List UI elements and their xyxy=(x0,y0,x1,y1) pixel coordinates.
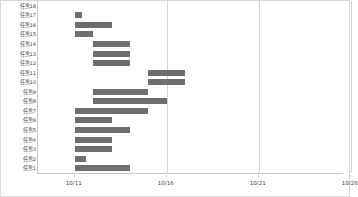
gantt-bar[interactable] xyxy=(75,108,149,114)
x-axis-tick xyxy=(74,175,75,177)
gantt-bar[interactable] xyxy=(93,98,167,104)
y-axis-tick-label: 任务18 xyxy=(1,3,36,9)
y-axis-tick-label: 任务16 xyxy=(1,22,36,28)
y-axis-tick-label: 任务8 xyxy=(1,98,36,104)
gantt-bar[interactable] xyxy=(75,31,93,37)
gantt-bar[interactable] xyxy=(75,137,112,143)
gantt-bar[interactable] xyxy=(93,51,130,57)
gridline xyxy=(259,1,260,173)
gridline xyxy=(167,1,168,173)
y-axis-tick-label: 任务3 xyxy=(1,146,36,152)
gantt-bar[interactable] xyxy=(75,12,82,18)
y-axis-tick-label: 任务4 xyxy=(1,137,36,143)
x-axis-labels: 10/1110/1610/2110/26 xyxy=(37,175,343,189)
gantt-bar[interactable] xyxy=(75,165,130,171)
gantt-bar[interactable] xyxy=(93,41,130,47)
x-axis-tick-label: 10/16 xyxy=(158,179,174,187)
y-axis-tick-label: 任务5 xyxy=(1,127,36,133)
gantt-bar[interactable] xyxy=(148,70,185,76)
gantt-bar[interactable] xyxy=(75,117,112,123)
y-axis-tick-label: 任务1 xyxy=(1,165,36,171)
x-axis-tick-label: 10/11 xyxy=(66,179,82,187)
x-axis-tick-label: 10/21 xyxy=(250,179,266,187)
gantt-bar[interactable] xyxy=(148,79,185,85)
gantt-bar[interactable] xyxy=(75,22,112,28)
gantt-bar[interactable] xyxy=(75,146,112,152)
y-axis-tick-label: 任务9 xyxy=(1,89,36,95)
y-axis-tick-label: 任务13 xyxy=(1,51,36,57)
x-axis-line xyxy=(37,173,343,174)
y-axis-tick-label: 任务2 xyxy=(1,156,36,162)
y-axis-tick-label: 任务14 xyxy=(1,41,36,47)
gridline xyxy=(351,1,352,173)
y-axis-tick-label: 任务15 xyxy=(1,31,36,37)
y-axis-tick-label: 任务10 xyxy=(1,79,36,85)
gantt-bar[interactable] xyxy=(93,89,148,95)
gantt-bar[interactable] xyxy=(75,156,86,162)
plot-area xyxy=(37,1,343,173)
x-axis-tick xyxy=(166,175,167,177)
gantt-bar[interactable] xyxy=(93,60,130,66)
y-axis-tick-label: 任务7 xyxy=(1,108,36,114)
y-axis-tick-label: 任务12 xyxy=(1,60,36,66)
x-axis-tick xyxy=(350,175,351,177)
y-axis-tick-label: 任务11 xyxy=(1,70,36,76)
y-axis-tick-label: 任务6 xyxy=(1,117,36,123)
y-axis-tick-label: 任务17 xyxy=(1,12,36,18)
y-axis-labels: 任务18任务17任务16任务15任务14任务13任务12任务11任务10任务9任… xyxy=(1,1,36,173)
x-axis-tick xyxy=(258,175,259,177)
x-axis-tick-label: 10/26 xyxy=(342,179,358,187)
gantt-bar[interactable] xyxy=(75,127,130,133)
